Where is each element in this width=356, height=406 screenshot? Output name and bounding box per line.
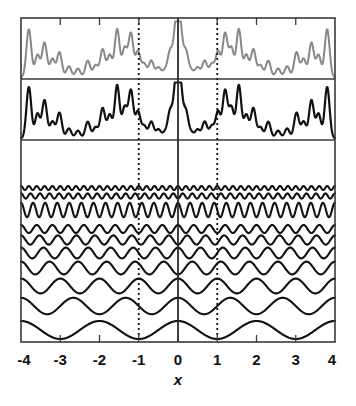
x-tick-label-6: 2 [252, 351, 260, 368]
x-tick-label-5: 1 [213, 351, 221, 368]
x-tick-label-4: 0 [174, 351, 182, 368]
x-axis-title: x [173, 371, 183, 388]
x-tick-label-3: -1 [132, 351, 145, 368]
x-tick-label-2: -2 [93, 351, 106, 368]
x-tick-label-8: 4 [328, 351, 337, 368]
figure-container: -4-3-2-101234x [0, 0, 356, 406]
x-tick-label-7: 3 [292, 351, 300, 368]
x-tick-label-0: -4 [17, 351, 31, 368]
x-tick-label-1: -3 [54, 351, 67, 368]
spectral-mode-figure: -4-3-2-101234x [0, 0, 356, 406]
